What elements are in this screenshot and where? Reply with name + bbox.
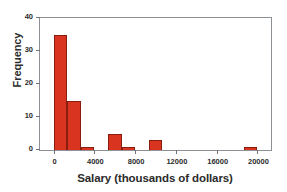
x-axis-tick-label: 20000 bbox=[248, 157, 269, 166]
x-axis-tick: 20000 bbox=[257, 150, 258, 154]
y-axis-tick: 30 bbox=[36, 50, 40, 51]
x-axis-tick-label: 12000 bbox=[166, 157, 187, 166]
y-axis-tick: 0 bbox=[36, 149, 40, 150]
histogram-bar bbox=[81, 147, 95, 150]
x-axis-tick: 8000 bbox=[135, 150, 136, 154]
x-axis-tick-label: 8000 bbox=[128, 157, 145, 166]
y-axis-tick: 40 bbox=[36, 17, 40, 18]
histogram-bar bbox=[108, 134, 122, 151]
x-axis-tick: 12000 bbox=[176, 150, 177, 154]
y-axis-tick: 20 bbox=[36, 83, 40, 84]
y-axis-tick-label: 0 bbox=[29, 144, 33, 153]
plot-area: 010203040040008000120001600020000 bbox=[40, 18, 271, 150]
y-axis-tick: 10 bbox=[36, 116, 40, 117]
histogram-bar bbox=[244, 147, 258, 150]
plot-frame: 010203040040008000120001600020000 bbox=[39, 17, 272, 151]
y-axis-label: Frequency bbox=[10, 10, 24, 110]
x-axis-tick-label: 16000 bbox=[207, 157, 228, 166]
histogram-bar bbox=[54, 35, 68, 151]
x-axis-tick: 0 bbox=[54, 150, 55, 154]
histogram-bar bbox=[67, 101, 81, 151]
y-axis-tick-label: 30 bbox=[25, 45, 33, 54]
histogram-bar bbox=[149, 140, 163, 150]
x-axis-tick-label: 0 bbox=[52, 157, 56, 166]
histogram-bar bbox=[122, 147, 136, 150]
x-axis-tick-label: 4000 bbox=[87, 157, 104, 166]
x-axis-tick: 16000 bbox=[217, 150, 218, 154]
y-axis-tick-label: 10 bbox=[25, 111, 33, 120]
y-axis-tick-label: 20 bbox=[25, 78, 33, 87]
x-axis-tick: 4000 bbox=[94, 150, 95, 154]
y-axis-tick-label: 40 bbox=[25, 12, 33, 21]
histogram-figure: Frequency 010203040040008000120001600020… bbox=[0, 0, 287, 192]
x-axis-label: Salary (thousands of dollars) bbox=[38, 172, 272, 184]
